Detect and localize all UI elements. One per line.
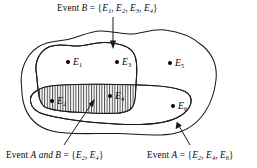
sample-point-dot bbox=[115, 60, 119, 64]
caption-close: } bbox=[153, 3, 158, 13]
sample-point-subscript: 4 bbox=[121, 95, 124, 102]
caption-sub: 4 bbox=[96, 154, 99, 161]
caption-conjunction: and bbox=[36, 150, 55, 160]
caption-prefix: Event bbox=[147, 150, 172, 160]
sample-point-subscript: 2 bbox=[63, 100, 66, 107]
caption-prefix: Event bbox=[57, 3, 82, 13]
sample-point-subscript: 1 bbox=[79, 61, 82, 68]
caption-equals: = { bbox=[177, 150, 192, 160]
caption-event-a-and-b: Event A and B = {E2, E4} bbox=[6, 150, 103, 160]
sample-point-subscript: 5 bbox=[181, 62, 184, 69]
sample-point-label-e3: E3 bbox=[122, 56, 131, 67]
caption-prefix: Event bbox=[6, 150, 31, 160]
caption-sub: 2 bbox=[122, 7, 125, 14]
caption-sub: 4 bbox=[212, 154, 215, 161]
sample-point-dot bbox=[50, 99, 54, 103]
sample-point-dot bbox=[66, 60, 70, 64]
caption-equals: = { bbox=[87, 3, 102, 13]
venn-diagram-canvas bbox=[0, 0, 257, 168]
venn-diagram-figure: E1 E2 E3 E4 E5 E6 Event B = {E1, E2, E3,… bbox=[0, 0, 257, 168]
sample-point-label-e6: E6 bbox=[178, 100, 187, 111]
sample-point-dot bbox=[108, 94, 112, 98]
sample-point-dot bbox=[171, 104, 175, 108]
caption-sub: 1 bbox=[108, 7, 111, 14]
sample-point-label-e2: E2 bbox=[57, 95, 66, 106]
caption-sub: 4 bbox=[150, 7, 153, 14]
sample-point-dot bbox=[168, 61, 172, 65]
caption-sub: 3 bbox=[136, 7, 139, 14]
caption-close: } bbox=[99, 150, 104, 160]
caption-sub: 2 bbox=[82, 154, 85, 161]
sample-point-label-e4: E4 bbox=[115, 90, 124, 101]
caption-equals: = { bbox=[61, 150, 76, 160]
sample-point-subscript: 6 bbox=[184, 105, 187, 112]
caption-close: } bbox=[229, 150, 234, 160]
caption-sub: 6 bbox=[226, 154, 229, 161]
caption-event-a: Event A = {E2, E4, E6} bbox=[147, 150, 234, 160]
caption-sub: 2 bbox=[198, 154, 201, 161]
sample-point-label-e1: E1 bbox=[73, 56, 82, 67]
sample-point-label-e5: E5 bbox=[175, 57, 184, 68]
sample-point-subscript: 3 bbox=[128, 61, 131, 68]
caption-event-b: Event B = {E1, E2, E3, E4} bbox=[57, 3, 158, 13]
